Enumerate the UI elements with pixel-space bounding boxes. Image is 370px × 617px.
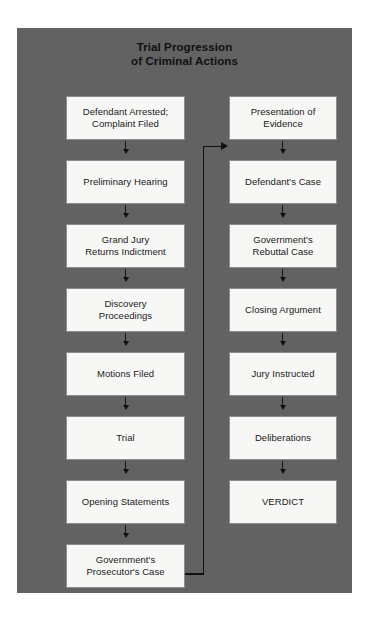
flow-node-grand-jury-indictment[interactable]: Grand Jury Returns Indictment — [66, 224, 185, 268]
flow-node-label: Presentation of Evidence — [247, 106, 320, 131]
flow-node-defendant-arrested[interactable]: Defendant Arrested; Complaint Filed — [66, 96, 185, 140]
flow-node-label: VERDICT — [258, 496, 308, 509]
flow-arrow-down-left-3 — [121, 269, 130, 283]
flow-node-defendants-case[interactable]: Defendant's Case — [229, 160, 337, 204]
flow-node-label: Motions Filed — [93, 368, 158, 381]
flow-arrow-down-left-5 — [121, 397, 130, 411]
flow-node-label: Defendant's Case — [241, 176, 325, 189]
flow-node-label: Government's Prosecutor's Case — [82, 554, 168, 579]
flow-arrow-down-left-4 — [121, 333, 130, 347]
flow-node-motions-filed[interactable]: Motions Filed — [66, 352, 185, 396]
flow-arrow-down-right-6 — [278, 461, 287, 475]
flow-node-jury-instructed[interactable]: Jury Instructed — [229, 352, 337, 396]
connector-segment-top — [203, 146, 223, 148]
flow-node-government-rebuttal-case[interactable]: Government's Rebuttal Case — [229, 224, 337, 268]
diagram-page: Trial Progression of Criminal Actions De… — [0, 0, 370, 617]
flow-node-label: Defendant Arrested; Complaint Filed — [79, 106, 172, 131]
flow-arrow-down-right-3 — [278, 269, 287, 283]
flow-arrow-down-left-1 — [121, 141, 130, 155]
page-title-line-1: Trial Progression — [17, 40, 352, 54]
connector-segment-bottom — [185, 573, 204, 575]
flow-node-label: Deliberations — [251, 432, 315, 445]
flow-arrow-down-right-2 — [278, 205, 287, 219]
flow-node-label: Closing Argument — [241, 304, 325, 317]
flow-node-government-prosecutors-case[interactable]: Government's Prosecutor's Case — [66, 544, 185, 588]
flow-node-label: Jury Instructed — [247, 368, 318, 381]
flow-node-label: Trial — [112, 432, 138, 445]
connector-segment-vertical — [203, 146, 205, 574]
page-title-line-2: of Criminal Actions — [17, 54, 352, 68]
flow-node-trial[interactable]: Trial — [66, 416, 185, 460]
flow-node-opening-statements[interactable]: Opening Statements — [66, 480, 185, 524]
flow-arrow-down-left-7 — [121, 525, 130, 539]
flow-node-verdict[interactable]: VERDICT — [229, 480, 337, 524]
flow-node-label: Opening Statements — [78, 496, 174, 509]
flow-node-preliminary-hearing[interactable]: Preliminary Hearing — [66, 160, 185, 204]
flow-arrow-down-right-4 — [278, 333, 287, 347]
flow-arrow-down-right-5 — [278, 397, 287, 411]
flow-arrow-down-left-6 — [121, 461, 130, 475]
flow-node-deliberations[interactable]: Deliberations — [229, 416, 337, 460]
flow-arrow-down-left-2 — [121, 205, 130, 219]
connector-arrowhead-icon — [221, 142, 228, 150]
flow-node-discovery-proceedings[interactable]: Discovery Proceedings — [66, 288, 185, 332]
flow-node-label: Preliminary Hearing — [79, 176, 171, 189]
flow-node-label: Discovery Proceedings — [95, 298, 156, 323]
page-title: Trial Progression of Criminal Actions — [17, 40, 352, 68]
flowchart-panel: Trial Progression of Criminal Actions De… — [17, 28, 352, 593]
flow-node-label: Government's Rebuttal Case — [249, 234, 318, 259]
flow-node-presentation-of-evidence[interactable]: Presentation of Evidence — [229, 96, 337, 140]
flow-node-label: Grand Jury Returns Indictment — [81, 234, 170, 259]
flow-arrow-down-right-1 — [278, 141, 287, 155]
flow-node-closing-argument[interactable]: Closing Argument — [229, 288, 337, 332]
